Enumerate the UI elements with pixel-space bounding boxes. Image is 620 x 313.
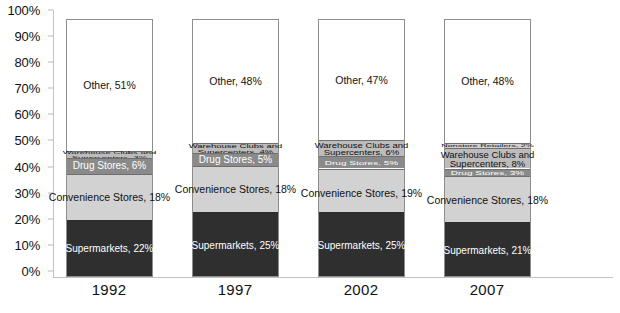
bar-stack[interactable]: Other, 47% Warehouse Clubs and Supercent… bbox=[318, 19, 405, 277]
segment-label: Other, 47% bbox=[303, 74, 421, 86]
x-tick-label-2002: 2002 bbox=[291, 281, 431, 298]
segment-label: Supermarkets, 22% bbox=[46, 243, 174, 254]
segment-label: Drug Stores, 5% bbox=[303, 160, 421, 166]
bar-stack[interactable]: Other, 51% Warehouse Clubs and Supercent… bbox=[66, 19, 153, 277]
y-tick-label: 20% bbox=[15, 212, 40, 227]
segment-drug-stores[interactable]: Drug Stores, 5% bbox=[193, 153, 278, 166]
segment-convenience-stores[interactable]: Convenience Stores, 18% bbox=[67, 174, 152, 220]
x-axis: 1992 1997 2002 2007 bbox=[53, 279, 613, 313]
y-axis-line bbox=[53, 10, 54, 278]
segment-label: Convenience Stores, 18% bbox=[424, 194, 552, 206]
bar-stack[interactable]: Other, 48% Warehouse Clubs and Supercent… bbox=[192, 19, 279, 277]
segment-label: Convenience Stores, 18% bbox=[46, 191, 174, 203]
segment-other[interactable]: Other, 48% bbox=[193, 20, 278, 143]
segment-supermarkets[interactable]: Supermarkets, 21% bbox=[445, 222, 530, 276]
segment-supermarkets[interactable]: Supermarkets, 22% bbox=[67, 220, 152, 276]
segment-convenience-stores[interactable]: Convenience Stores, 18% bbox=[445, 176, 530, 222]
y-tick-label: 70% bbox=[15, 81, 40, 96]
segment-convenience-stores[interactable]: Convenience Stores, 19% bbox=[319, 169, 404, 218]
y-tick-label: 0% bbox=[22, 264, 40, 279]
bar-group-2002: Other, 47% Warehouse Clubs and Supercent… bbox=[318, 19, 405, 277]
segment-label: Other, 48% bbox=[429, 75, 547, 87]
y-tick-label: 10% bbox=[15, 238, 40, 253]
segment-label: Drug Stores, 6% bbox=[51, 161, 169, 171]
y-tick-label: 50% bbox=[15, 133, 40, 148]
segment-warehouse-clubs[interactable]: Warehouse Clubs and Supercenters, 3% bbox=[67, 151, 152, 159]
y-tick-label: 90% bbox=[15, 29, 40, 44]
segment-warehouse-clubs[interactable]: Warehouse Clubs and Supercenters, 6% bbox=[319, 140, 404, 155]
stacked-bar-chart: 100% 90% 80% 70% 60% 50% 40% 30% 20% 10%… bbox=[0, 0, 620, 313]
x-tick-label-2007: 2007 bbox=[417, 281, 557, 298]
segment-label: Drug Stores, 5% bbox=[177, 155, 295, 165]
y-tick-label: 30% bbox=[15, 186, 40, 201]
segment-drug-stores[interactable]: Drug Stores, 5% bbox=[319, 156, 404, 169]
y-tick-label: 40% bbox=[15, 160, 40, 175]
segment-warehouse-clubs[interactable]: Warehouse Clubs and Supercenters, 8% bbox=[445, 148, 530, 168]
segment-label: Supermarkets, 25% bbox=[172, 239, 300, 250]
segment-label: Supermarkets, 25% bbox=[298, 239, 426, 250]
segment-label: Warehouse Clubs and Supercenters, 6% bbox=[298, 142, 426, 155]
y-tick-label: 60% bbox=[15, 107, 40, 122]
segment-other[interactable]: Other, 48% bbox=[445, 20, 530, 143]
bar-group-1997: Other, 48% Warehouse Clubs and Supercent… bbox=[192, 19, 279, 277]
y-axis: 100% 90% 80% 70% 60% 50% 40% 30% 20% 10%… bbox=[0, 0, 48, 288]
bar-group-2007: Other, 48% Nonstore Retailers, 2% Wareho… bbox=[444, 19, 531, 277]
segment-supermarkets[interactable]: Supermarkets, 25% bbox=[193, 212, 278, 276]
segment-drug-stores[interactable]: Drug Stores, 3% bbox=[445, 169, 530, 177]
x-tick-label-1997: 1997 bbox=[165, 281, 305, 298]
plot-area: Other, 51% Warehouse Clubs and Supercent… bbox=[53, 10, 613, 278]
y-tick-label: 80% bbox=[15, 55, 40, 70]
segment-convenience-stores[interactable]: Convenience Stores, 18% bbox=[193, 166, 278, 212]
bar-group-1992: Other, 51% Warehouse Clubs and Supercent… bbox=[66, 19, 153, 277]
segment-other[interactable]: Other, 47% bbox=[319, 20, 404, 140]
segment-warehouse-clubs[interactable]: Warehouse Clubs and Supercenters, 4% bbox=[193, 143, 278, 153]
segment-label: Supermarkets, 21% bbox=[424, 244, 552, 255]
segment-drug-stores[interactable]: Drug Stores, 6% bbox=[67, 158, 152, 173]
bar-stack[interactable]: Other, 48% Nonstore Retailers, 2% Wareho… bbox=[444, 19, 531, 277]
segment-supermarkets[interactable]: Supermarkets, 25% bbox=[319, 212, 404, 276]
segment-label: Drug Stores, 3% bbox=[429, 170, 547, 176]
x-tick-label-1992: 1992 bbox=[39, 281, 179, 298]
segment-label: Other, 48% bbox=[177, 75, 295, 87]
segment-label: Other, 51% bbox=[51, 79, 169, 91]
segment-label: Convenience Stores, 18% bbox=[172, 183, 300, 195]
y-tick-label: 100% bbox=[8, 3, 40, 18]
segment-other[interactable]: Other, 51% bbox=[67, 20, 152, 151]
x-axis-line bbox=[53, 277, 613, 278]
segment-label: Convenience Stores, 19% bbox=[298, 187, 426, 199]
segment-label: Warehouse Clubs and Supercenters, 8% bbox=[424, 149, 552, 168]
